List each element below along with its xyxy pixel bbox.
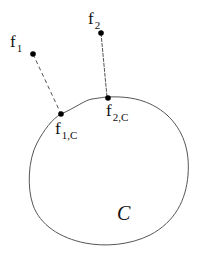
point-f2c [105,95,111,101]
label-set-c: C [117,203,130,223]
label-f1: f1 [10,33,22,50]
label-f1c: f1,C [55,120,77,137]
point-f2 [98,30,104,36]
projection-line-f2 [101,33,107,97]
projection-line-f1 [33,54,61,114]
diagram-graphics [0,0,197,253]
point-f1 [30,51,36,57]
projection-diagram: f1 f2 f1,C f2,C C [0,0,197,253]
label-f2: f2 [88,10,100,27]
label-f2c: f2,C [106,102,128,119]
point-f1c [58,111,64,117]
